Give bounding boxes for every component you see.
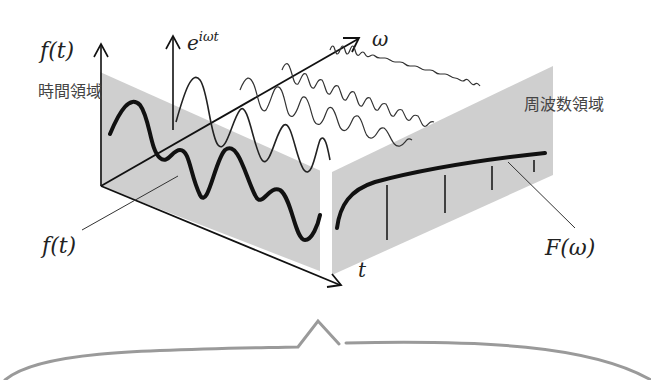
basis-wave-3: [282, 64, 434, 127]
omega-axis-label: ω: [372, 27, 388, 51]
fourier-diagram: f(t) eiωt ω 時間領域 周波数領域 f(t) F(ω) t: [0, 0, 651, 380]
curly-brace: [5, 321, 651, 380]
ft-axis-label: f(t): [38, 38, 74, 63]
basis-wave-2: [240, 78, 412, 146]
ft-callout-label: f(t): [40, 233, 76, 258]
frequency-domain-plane: [332, 66, 553, 275]
frequency-domain-label: 周波数領域: [524, 95, 604, 114]
basis-label: eiωt: [187, 29, 220, 55]
t-axis-label: t: [358, 258, 367, 282]
time-domain-label: 時間領域: [38, 82, 102, 101]
Fw-callout-label: F(ω): [544, 235, 595, 260]
